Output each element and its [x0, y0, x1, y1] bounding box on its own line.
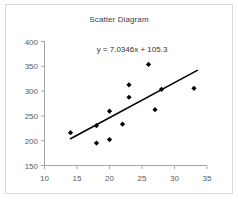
data-point: [68, 130, 73, 135]
x-tick-label: 10: [40, 174, 49, 183]
y-tick-label: 400: [25, 38, 39, 47]
data-point: [107, 137, 112, 142]
data-point: [146, 62, 151, 67]
x-tick-label: 35: [203, 174, 212, 183]
data-point: [152, 107, 157, 112]
scatter-chart-container: Scatter Diagram 400 350 300: [0, 0, 238, 199]
data-point: [120, 122, 125, 127]
y-tick-label: 200: [25, 137, 39, 146]
x-tick-label: 20: [105, 174, 114, 183]
data-point: [126, 95, 131, 100]
y-tick-label: 150: [25, 162, 39, 171]
data-point: [107, 109, 112, 114]
x-tick-label: 15: [73, 174, 82, 183]
x-axis-ticks: [45, 166, 208, 170]
regression-equation-label: y = 7.0346x + 105.3: [97, 45, 168, 54]
plot-area: 400 350 300 250 200 150 10 15 20 25 30 3…: [0, 0, 238, 199]
y-tick-label: 350: [25, 62, 39, 71]
y-tick-label: 300: [25, 87, 39, 96]
x-tick-label: 25: [138, 174, 147, 183]
x-tick-label: 30: [170, 174, 179, 183]
data-points-group: [68, 62, 197, 146]
y-axis-ticks: [41, 42, 45, 166]
data-point: [126, 82, 131, 87]
y-axis-labels: 400 350 300 250 200 150: [25, 38, 39, 171]
trendline: [71, 70, 198, 138]
data-point: [191, 86, 196, 91]
y-tick-label: 250: [25, 112, 39, 121]
x-axis-labels: 10 15 20 25 30 35: [40, 174, 212, 183]
data-point: [94, 140, 99, 145]
